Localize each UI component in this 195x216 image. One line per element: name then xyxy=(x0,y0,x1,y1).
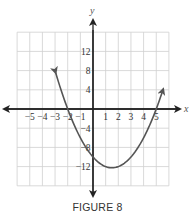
y-tick-label: −12 xyxy=(76,162,91,172)
parabola-curve xyxy=(56,73,164,168)
x-tick-label: −5 xyxy=(25,112,35,122)
y-tick-label: 8 xyxy=(86,66,91,76)
x-axis-label: x xyxy=(183,103,189,114)
y-tick-label: 12 xyxy=(81,47,91,57)
y-axis-label: y xyxy=(89,5,95,16)
x-tick-label: −3 xyxy=(50,112,60,122)
y-tick-label: −4 xyxy=(80,124,90,134)
figure-caption: FIGURE 8 xyxy=(0,201,195,213)
x-tick-label: 2 xyxy=(116,112,121,122)
axes xyxy=(4,20,180,196)
x-tick-label: −4 xyxy=(37,112,47,122)
y-tick-label: 4 xyxy=(86,85,91,95)
parabola-graph: −5−4−3−2−1123451284−4−8−12 x y xyxy=(0,0,195,216)
x-tick-label: −1 xyxy=(75,112,85,122)
x-tick-label: 1 xyxy=(103,112,108,122)
x-tick-label: 4 xyxy=(141,112,146,122)
x-tick-label: 3 xyxy=(129,112,134,122)
